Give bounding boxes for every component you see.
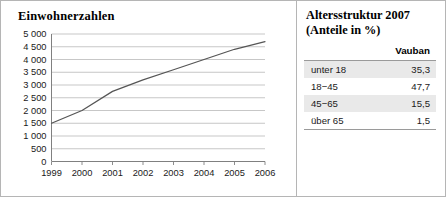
table-row: 18−4547,7 — [304, 78, 436, 95]
y-axis-tick-label: 2 000 — [23, 106, 46, 116]
figure-container: Einwohnerzahlen 05001 0001 5002 0002 500… — [0, 0, 446, 197]
age-group-label: 18−45 — [304, 78, 371, 95]
age-structure-table: Vauban unter 1835,318−4547,745−6515,5übe… — [304, 45, 436, 130]
y-axis-tick-label: 4 500 — [23, 42, 46, 52]
y-axis-tick-label: 5 000 — [23, 29, 46, 39]
x-axis-tick-label: 2001 — [102, 168, 123, 178]
y-axis-tick-labels: 05001 0001 5002 0002 5003 0003 5004 0004… — [23, 29, 46, 167]
table-title-line-1: Altersstruktur 2007 — [306, 8, 410, 22]
x-axis-tick-label: 2005 — [224, 168, 245, 178]
gridlines-group — [52, 34, 266, 149]
population-line-series — [52, 42, 266, 124]
table-row: über 651,5 — [304, 112, 436, 130]
table-title-line-2: (Anteile in %) — [306, 23, 410, 38]
age-group-value: 15,5 — [371, 95, 436, 112]
age-group-label: unter 18 — [304, 61, 371, 79]
y-axis-tick-label: 2 500 — [23, 93, 46, 103]
table-title: Altersstruktur 2007 (Anteile in %) — [306, 8, 410, 37]
x-axis-tick-label: 2002 — [133, 168, 154, 178]
x-axis-tick-label: 2000 — [72, 168, 93, 178]
x-axis-tick-marks — [52, 162, 266, 166]
table-header-row: Vauban — [304, 45, 436, 61]
x-axis-tick-label: 2003 — [163, 168, 184, 178]
y-axis-tick-label: 4 000 — [23, 55, 46, 65]
age-group-label: 45−65 — [304, 95, 371, 112]
line-chart-svg: 05001 0001 5002 0002 5003 0003 5004 0004… — [1, 1, 296, 196]
y-axis-tick-label: 1 500 — [23, 118, 46, 128]
chart-plot-area: 05001 0001 5002 0002 5003 0003 5004 0004… — [1, 1, 296, 196]
x-axis-tick-label: 2006 — [255, 168, 276, 178]
population-chart-panel: Einwohnerzahlen 05001 0001 5002 0002 500… — [1, 1, 296, 196]
x-axis-tick-label: 1999 — [41, 168, 62, 178]
y-axis-tick-label: 3 500 — [23, 67, 46, 77]
age-group-value: 35,3 — [371, 61, 436, 79]
table-column-header-vauban: Vauban — [371, 45, 436, 61]
table-header: Vauban — [304, 45, 436, 61]
x-axis-tick-label: 2004 — [194, 168, 215, 178]
table-row: unter 1835,3 — [304, 61, 436, 79]
y-axis-tick-label: 3 000 — [23, 80, 46, 90]
age-group-label: über 65 — [304, 112, 371, 130]
age-structure-panel: Altersstruktur 2007 (Anteile in %) Vauba… — [297, 1, 445, 196]
age-group-value: 47,7 — [371, 78, 436, 95]
y-axis-tick-label: 500 — [31, 144, 47, 154]
table-header-spacer — [304, 45, 371, 61]
table-body: unter 1835,318−4547,745−6515,5über 651,5 — [304, 61, 436, 130]
table-row: 45−6515,5 — [304, 95, 436, 112]
age-group-value: 1,5 — [371, 112, 436, 130]
y-axis-tick-label: 0 — [41, 157, 46, 167]
x-axis-tick-labels: 19992000200120022003200420052006 — [41, 168, 275, 178]
y-axis-tick-label: 1 000 — [23, 131, 46, 141]
